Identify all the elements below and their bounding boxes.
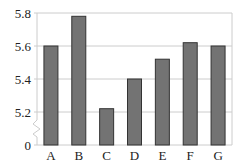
x-tick-label: A bbox=[46, 148, 56, 163]
y-tick-labels: 05.25.45.65.8 bbox=[15, 6, 32, 153]
bar-chart: 05.25.45.65.8 ABCDEFG bbox=[0, 0, 239, 167]
x-tick-label: B bbox=[74, 148, 83, 163]
x-tick-label: E bbox=[158, 148, 166, 163]
x-tick-label: C bbox=[102, 148, 111, 163]
x-tick-label: G bbox=[213, 148, 222, 163]
x-tick-label: F bbox=[187, 148, 194, 163]
bar-a bbox=[44, 46, 58, 145]
x-tick-labels: ABCDEFG bbox=[46, 148, 223, 163]
bar-f bbox=[183, 43, 197, 145]
y-tick-label: 5.4 bbox=[15, 72, 32, 87]
y-tick-label: 5.6 bbox=[15, 39, 32, 54]
y-tick-label: 0 bbox=[25, 138, 32, 153]
bar-g bbox=[211, 46, 225, 145]
bars bbox=[44, 16, 225, 145]
y-tick-label: 5.2 bbox=[15, 105, 31, 120]
bar-d bbox=[128, 79, 142, 145]
bar-b bbox=[72, 16, 86, 145]
bar-c bbox=[100, 109, 114, 145]
bar-e bbox=[155, 59, 169, 145]
y-tick-label: 5.8 bbox=[15, 6, 31, 21]
x-tick-label: D bbox=[130, 148, 139, 163]
